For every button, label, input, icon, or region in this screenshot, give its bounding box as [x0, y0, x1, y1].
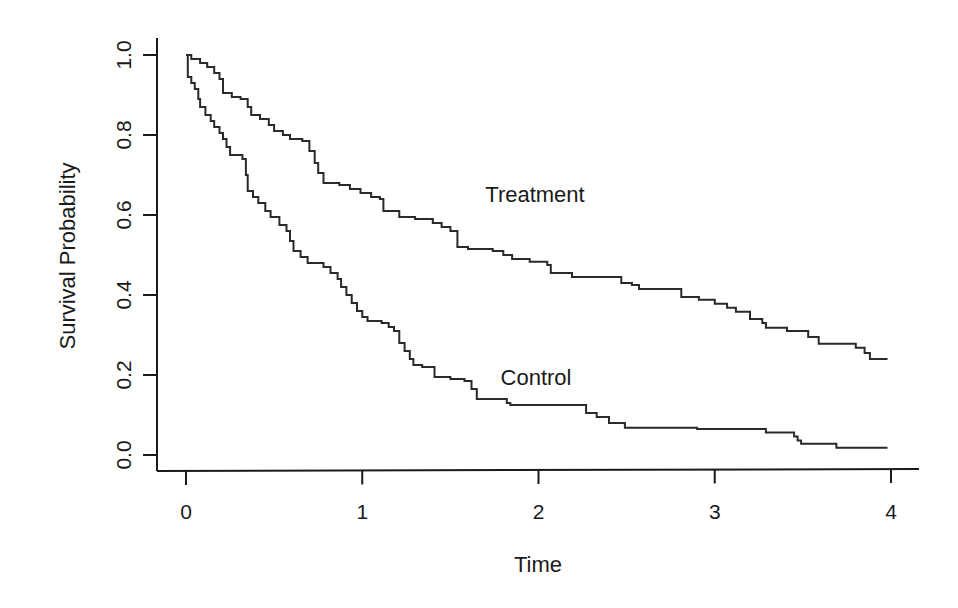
y-tick-label: 0.6: [112, 200, 135, 229]
treatment-label: Treatment: [485, 182, 584, 207]
y-tick-label: 1.0: [112, 40, 135, 69]
survival-chart: 0.00.20.40.60.81.0 Survival Probability …: [0, 0, 958, 608]
y-tick-label: 0.2: [112, 360, 135, 389]
treatment-survival-curve: [186, 55, 888, 359]
x-axis-title: Time: [514, 552, 562, 577]
x-ticks: 01234: [180, 469, 897, 523]
y-tick-label: 0.4: [112, 280, 135, 310]
control-label: Control: [501, 365, 572, 390]
y-tick-label: 0.0: [112, 440, 135, 469]
x-axis: 01234 Time: [157, 469, 919, 577]
y-ticks: 0.00.20.40.60.81.0: [112, 40, 157, 469]
x-tick-label: 3: [709, 500, 721, 523]
y-axis-title: Survival Probability: [55, 162, 80, 349]
x-tick-label: 1: [356, 500, 368, 523]
x-tick-label: 2: [533, 500, 545, 523]
y-tick-label: 0.8: [112, 120, 135, 149]
x-tick-label: 0: [180, 500, 192, 523]
y-axis: 0.00.20.40.60.81.0 Survival Probability: [55, 38, 157, 471]
x-tick-label: 4: [885, 500, 897, 523]
